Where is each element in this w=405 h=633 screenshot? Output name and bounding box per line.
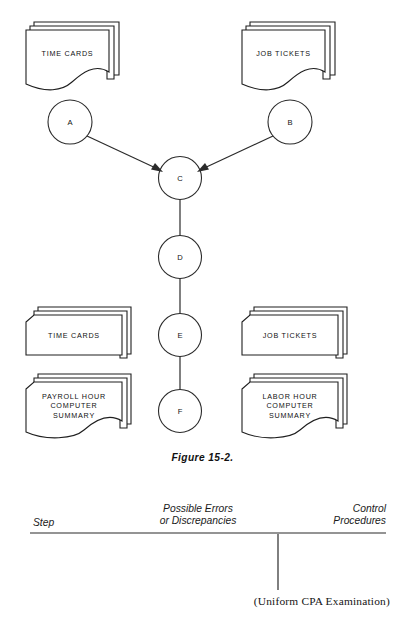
card-body-job-tickets-bottom <box>242 315 338 355</box>
connector-b-to-c <box>197 136 273 172</box>
flowchart-canvas <box>0 0 405 633</box>
document-shape-time-cards-bottom <box>26 307 131 358</box>
document-body-payroll-summary <box>26 382 122 438</box>
node-circle-c[interactable] <box>159 157 202 200</box>
document-shape-time-cards-top <box>26 22 119 90</box>
card-body-time-cards-bottom <box>26 315 122 355</box>
table-header-control-procedures: Control Procedures <box>288 503 386 528</box>
document-body-time-cards-top <box>26 30 109 90</box>
connector-a-to-c <box>87 136 163 172</box>
document-shape-payroll-summary <box>26 374 131 438</box>
table-header-step: Step <box>33 517 54 529</box>
document-shape-labor-summary <box>242 374 347 438</box>
document-body-job-tickets-top <box>242 30 325 90</box>
node-circle-e[interactable] <box>159 314 202 357</box>
table-header-possible-errors: Possible Errors or Discrepancies <box>118 503 278 528</box>
node-circle-d[interactable] <box>159 236 202 279</box>
node-circle-a[interactable] <box>48 100 92 144</box>
document-shape-job-tickets-bottom <box>242 307 347 358</box>
figure-container: TIME CARDS JOB TICKETS TIME CARDS JOB TI… <box>0 0 405 633</box>
source-attribution: (Uniform CPA Examination) <box>0 595 390 607</box>
figure-caption: Figure 15-2. <box>0 452 405 463</box>
node-circle-f[interactable] <box>159 390 202 433</box>
node-circle-b[interactable] <box>268 100 312 144</box>
document-body-labor-summary <box>242 382 338 438</box>
document-shape-job-tickets-top <box>242 22 335 90</box>
